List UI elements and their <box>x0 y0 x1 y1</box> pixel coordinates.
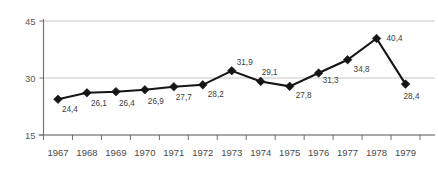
data-marker-1967 <box>54 95 63 104</box>
x-axis-category-labels: 1967196819691970197119721973197419751976… <box>47 147 416 158</box>
data-marker-1968 <box>83 89 92 98</box>
data-marker-1974 <box>256 77 265 86</box>
data-label-1977: 34,8 <box>354 65 370 74</box>
data-marker-1975 <box>285 82 294 91</box>
data-label-1972: 28,2 <box>208 90 224 99</box>
y-axis-group <box>40 19 44 135</box>
x-axis-label-1976: 1976 <box>308 147 329 158</box>
chart-canvas: 153045 196719681969197019711972197319741… <box>0 0 438 179</box>
x-axis-label-1973: 1973 <box>221 147 242 158</box>
x-axis-label-1975: 1975 <box>279 147 300 158</box>
y-axis-label-45: 45 <box>25 16 36 27</box>
x-axis-label-1972: 1972 <box>192 147 213 158</box>
x-axis-group <box>39 135 436 140</box>
y-axis-label-15: 15 <box>25 130 36 141</box>
data-marker-1971 <box>170 82 179 91</box>
line-chart-figure: 153045 196719681969197019711972197319741… <box>0 0 438 179</box>
x-axis-label-1967: 1967 <box>47 147 68 158</box>
data-label-1967: 24,4 <box>62 105 78 114</box>
data-label-1978: 40,4 <box>387 34 403 43</box>
x-axis-label-1968: 1968 <box>76 147 97 158</box>
x-axis-label-1979: 1979 <box>395 147 416 158</box>
data-label-1975: 27,8 <box>296 91 312 100</box>
data-label-1971: 27,7 <box>176 93 192 102</box>
y-axis-tick-labels: 153045 <box>25 16 36 141</box>
data-label-1968: 26,1 <box>91 99 107 108</box>
x-axis-label-1970: 1970 <box>134 147 155 158</box>
data-marker-1970 <box>141 85 150 94</box>
x-axis-label-1977: 1977 <box>337 147 358 158</box>
x-axis-label-1974: 1974 <box>250 147 271 158</box>
data-label-1979: 28,4 <box>404 92 420 101</box>
data-marker-1973 <box>227 66 236 75</box>
data-marker-1972 <box>198 81 207 90</box>
y-axis-label-30: 30 <box>25 73 36 84</box>
x-axis-label-1969: 1969 <box>105 147 126 158</box>
data-label-1974: 29,1 <box>262 68 278 77</box>
data-label-1970: 26,9 <box>148 97 164 106</box>
x-axis-label-1978: 1978 <box>366 147 387 158</box>
data-marker-1969 <box>112 87 121 96</box>
x-axis-label-1971: 1971 <box>163 147 184 158</box>
data-label-1969: 26,4 <box>119 99 135 108</box>
data-label-1976: 31,3 <box>323 76 339 85</box>
data-label-1973: 31,9 <box>237 58 253 67</box>
